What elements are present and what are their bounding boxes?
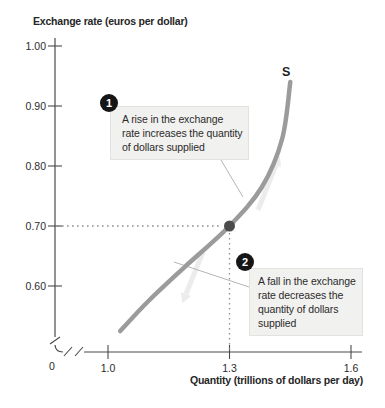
- callout-1-text: rate increases the quantity: [122, 126, 242, 140]
- chart-canvas: 1.000.900.800.700.60 1.01.31.6 S 0: [0, 0, 385, 408]
- supply-of-dollars-figure: Exchange rate (euros per dollar) 1.000.9…: [0, 0, 385, 408]
- x-axis-title: Quantity (trillions of dollars per day): [190, 374, 363, 386]
- y-tick-label: 0.60: [26, 280, 47, 292]
- callout-2-number-badge: 2: [236, 253, 254, 271]
- callout-1-text: A rise in the exchange: [122, 112, 242, 126]
- axis-origin-corner: [55, 345, 63, 352]
- x-axis-break-icon: [64, 347, 72, 356]
- callout-2-text: A fall in the exchange: [258, 274, 356, 288]
- y-axis-ticks: 1.000.900.800.700.60: [26, 40, 62, 292]
- y-tick-label: 0.80: [26, 160, 47, 172]
- x-axis-break-icon: [75, 347, 83, 356]
- callout-1-text: of dollars supplied: [122, 140, 242, 154]
- y-tick-label: 0.70: [26, 220, 47, 232]
- callout-2-box: A fall in the exchange rate decreases th…: [249, 268, 363, 336]
- y-tick-label: 0.90: [26, 100, 47, 112]
- equilibrium-point: [224, 221, 235, 232]
- callout-1-number-badge: 1: [100, 94, 118, 112]
- x-tick-label: 1.3: [222, 362, 237, 374]
- callout-2-text: rate decreases the: [258, 288, 356, 302]
- y-axis-break-icon: [50, 337, 60, 344]
- x-tick-label: 1.0: [101, 362, 116, 374]
- x-tick-label: 1.6: [344, 362, 359, 374]
- flow-arrow-up-icon: [258, 156, 281, 210]
- callout-2-text: quantity of dollars: [258, 302, 356, 316]
- callout-1-leader-line: [218, 155, 243, 197]
- supply-curve-label: S: [282, 65, 290, 79]
- callout-2-text: supplied: [258, 316, 356, 330]
- callout-1-box: A rise in the exchange rate increases th…: [110, 106, 249, 160]
- y-tick-label: 1.00: [26, 40, 47, 52]
- origin-label: 0: [49, 360, 55, 372]
